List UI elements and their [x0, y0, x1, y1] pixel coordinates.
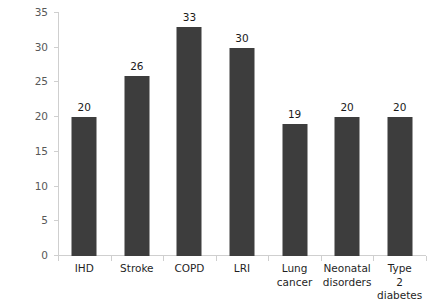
plot-area: 05101520253035 20263330192020: [58, 13, 426, 256]
bar: [229, 48, 254, 256]
bar: [335, 117, 360, 256]
y-axis-title: Global deaths (%: [4, 0, 28, 24]
y-axis-tick-label: 25: [35, 74, 48, 88]
y-axis-tick-label: 0: [41, 248, 48, 262]
y-axis-tick-label: 35: [35, 5, 48, 19]
x-axis-tick: [373, 256, 374, 261]
x-axis-category-label: IHD: [58, 262, 111, 276]
bar: [72, 117, 97, 256]
bar: [282, 124, 307, 256]
x-axis-category-label: Type 2 diabetes: [373, 262, 426, 301]
x-axis-category-label: Stroke: [111, 262, 164, 276]
x-axis-tick: [268, 256, 269, 261]
x-axis-labels: IHDStrokeCOPDLRILung cancerNeonatal diso…: [58, 262, 426, 301]
bar: [387, 117, 412, 256]
x-axis-category-label: LRI: [216, 262, 269, 276]
bar-slot: 19: [268, 13, 321, 256]
x-axis-category-label: Neonatal disorders: [321, 262, 374, 289]
bar-value-label: 19: [288, 108, 301, 120]
bar-chart: Global deaths (% 05101520253035 20263330…: [0, 0, 444, 301]
y-axis-tick-label: 20: [35, 109, 48, 123]
bar-slot: 20: [373, 13, 426, 256]
bar-slot: 30: [216, 13, 269, 256]
x-axis-category-label: Lung cancer: [268, 262, 321, 289]
x-axis-tick: [163, 256, 164, 261]
y-axis-tick-label: 30: [35, 40, 48, 54]
bar-series: 20263330192020: [58, 13, 426, 256]
bar: [124, 76, 149, 257]
x-axis-tick: [216, 256, 217, 261]
y-axis-tick-label: 10: [35, 179, 48, 193]
x-axis-category-label: COPD: [163, 262, 216, 276]
bar-slot: 33: [163, 13, 216, 256]
y-axis-tick-label: 5: [41, 213, 48, 227]
x-axis-tick: [426, 256, 427, 261]
bar-slot: 20: [58, 13, 111, 256]
bar-value-label: 20: [340, 101, 353, 113]
x-axis-tick: [111, 256, 112, 261]
x-axis-tick: [58, 256, 59, 261]
bar-slot: 26: [111, 13, 164, 256]
x-axis-tick: [321, 256, 322, 261]
bar-value-label: 26: [130, 60, 143, 72]
bar-value-label: 20: [393, 101, 406, 113]
bar: [177, 27, 202, 256]
bar-value-label: 33: [183, 11, 196, 23]
y-axis-tick-label: 15: [35, 144, 48, 158]
bar-value-label: 20: [78, 101, 91, 113]
bar-slot: 20: [321, 13, 374, 256]
bar-value-label: 30: [235, 32, 248, 44]
